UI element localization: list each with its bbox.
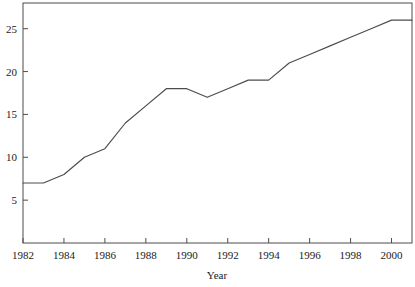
y-tick-label: 25 <box>6 23 18 35</box>
y-tick-label: 10 <box>6 151 18 163</box>
x-tick-label: 1986 <box>94 249 117 261</box>
x-tick-label: 1998 <box>340 249 363 261</box>
x-tick-label: 1992 <box>217 249 239 261</box>
chart-background <box>0 0 415 287</box>
y-tick-label: 15 <box>6 108 18 120</box>
line-chart: 510152025 198219841986198819901992199419… <box>0 0 415 287</box>
x-tick-label: 1988 <box>135 249 158 261</box>
x-tick-label: 1990 <box>176 249 199 261</box>
y-tick-label: 5 <box>12 194 18 206</box>
x-tick-label: 2000 <box>381 249 404 261</box>
y-tick-label: 20 <box>6 66 18 78</box>
x-axis-title: Year <box>207 269 228 281</box>
x-tick-label: 1984 <box>53 249 76 261</box>
chart-canvas: 510152025 198219841986198819901992199419… <box>0 0 415 287</box>
x-tick-label: 1982 <box>12 249 34 261</box>
x-tick-label: 1996 <box>299 249 322 261</box>
x-tick-label: 1994 <box>258 249 281 261</box>
